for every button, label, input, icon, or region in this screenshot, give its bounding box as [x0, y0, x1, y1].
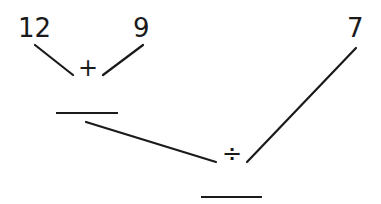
connector-9-plus [103, 45, 143, 75]
connector-7-divide [247, 48, 356, 162]
connector-blank-divide [86, 122, 216, 162]
diagram-lines [0, 0, 381, 204]
connector-12-plus [35, 45, 73, 75]
operand-12: 12 [18, 15, 51, 41]
plus-operator: + [78, 56, 98, 80]
operand-9: 9 [133, 15, 150, 41]
divide-operator: ÷ [222, 142, 242, 166]
operand-7: 7 [347, 15, 364, 41]
